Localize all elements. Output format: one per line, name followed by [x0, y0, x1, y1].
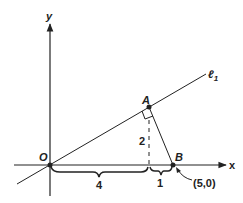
brace-1 — [150, 167, 172, 175]
coordinate-pointer — [178, 170, 192, 180]
line-l1-subscript: 1 — [214, 74, 219, 83]
point-B — [171, 163, 176, 168]
x-axis-label: x — [229, 159, 236, 171]
brace-1-label: 1 — [157, 177, 163, 189]
line-l1 — [17, 74, 206, 184]
point-B-label: B — [175, 151, 183, 163]
diagram-canvas: y x ℓ1 2 O A B 4 1 (5,0) — [0, 0, 243, 203]
point-O-label: O — [39, 151, 48, 163]
brace-4-label: 4 — [96, 179, 103, 191]
brace-4 — [51, 167, 148, 177]
height-label: 2 — [139, 135, 145, 147]
coordinate-pointer-arrowhead — [176, 167, 181, 173]
line-l1-label: ℓ1 — [208, 68, 219, 83]
point-B-coordinate: (5,0) — [193, 177, 216, 189]
point-A-label: A — [141, 94, 150, 106]
y-axis-label: y — [45, 10, 53, 22]
